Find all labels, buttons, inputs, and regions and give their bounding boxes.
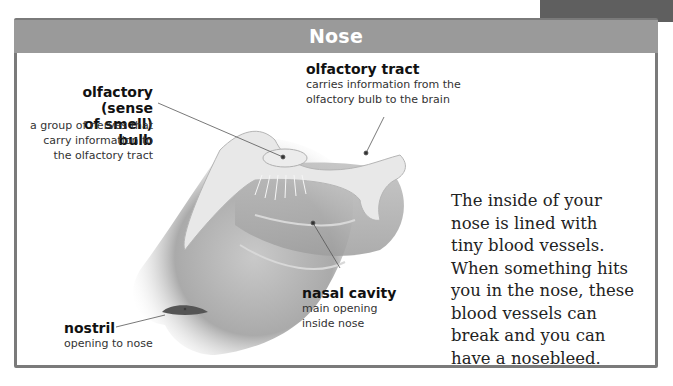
- nostril-title: nostril: [64, 320, 174, 336]
- olfactory-bulb-title: olfactory (sense: [50, 84, 153, 116]
- olfactory-tract-title: olfactory tract: [306, 61, 506, 77]
- body-line: tiny blood vessels.: [451, 235, 661, 258]
- body-line: nose is lined with: [451, 213, 661, 236]
- nasal-cavity-title: nasal cavity: [302, 285, 412, 301]
- body-paragraph: The inside of your nose is lined with ti…: [451, 190, 661, 370]
- nasal-cavity-desc-1: main opening: [302, 301, 412, 316]
- body-line: break and you can: [451, 325, 661, 348]
- label-nasal-cavity: nasal cavity main opening inside nose: [302, 285, 412, 331]
- label-olfactory-bulb-desc: a group of nerves that carry information…: [20, 118, 153, 163]
- nostril-desc: opening to nose: [64, 336, 174, 351]
- label-nostril: nostril opening to nose: [64, 320, 174, 351]
- nasal-cavity-desc-2: inside nose: [302, 316, 412, 331]
- olfactory-tract-desc-2: olfactory bulb to the brain: [306, 92, 506, 107]
- olfactory-bulb-desc-3: the olfactory tract: [20, 148, 153, 163]
- olfactory-tract-desc-1: carries information from the: [306, 77, 506, 92]
- body-line: When something hits: [451, 258, 661, 281]
- body-line: blood vessels can: [451, 303, 661, 326]
- body-line: have a nosebleed.: [451, 348, 661, 371]
- label-olfactory-tract: olfactory tract carries information from…: [306, 61, 506, 107]
- body-line: you in the nose, these: [451, 280, 661, 303]
- olfactory-bulb-desc-1: a group of nerves that: [20, 118, 153, 133]
- olfactory-bulb-desc-2: carry information to: [20, 133, 153, 148]
- body-line: The inside of your: [451, 190, 661, 213]
